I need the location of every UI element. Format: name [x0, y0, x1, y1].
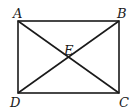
- vertex-label-c: C: [119, 95, 129, 110]
- intersection-label-e: E: [63, 43, 74, 58]
- vertex-label-d: D: [9, 95, 21, 110]
- vertex-label-b: B: [116, 6, 127, 21]
- vertex-label-a: A: [12, 6, 22, 21]
- rectangle-diagram: A B C D E: [0, 0, 135, 110]
